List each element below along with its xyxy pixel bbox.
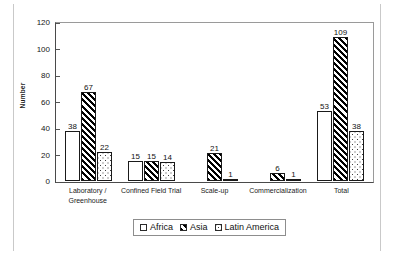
bar-value-label: 14	[163, 153, 172, 162]
x-axis-label: Total	[310, 186, 373, 205]
bar-value-label: 15	[147, 152, 156, 161]
bar-slot: 15	[128, 24, 143, 181]
bar-slot: 21	[207, 24, 222, 181]
legend-item-asia[interactable]: Asia	[180, 222, 208, 232]
bar-africa[interactable]: 53	[317, 111, 332, 181]
bar-asia[interactable]: 6	[270, 173, 285, 181]
bar-slot: 38	[65, 24, 80, 181]
bar-group: 151514	[120, 24, 183, 181]
bar-latin-america[interactable]: 38	[349, 131, 364, 181]
bar-value-label: 1	[228, 170, 232, 179]
y-tick-label: 40	[41, 124, 50, 133]
bar-africa[interactable]: 38	[65, 131, 80, 181]
bar-africa[interactable]: 15	[128, 161, 143, 181]
bar-value-label: 21	[210, 144, 219, 153]
x-axis-label-line: Laboratory /	[56, 186, 119, 196]
x-axis-label: Commercialization	[246, 186, 309, 205]
bar-group: 5310938	[309, 24, 372, 181]
bar-latin-america[interactable]: 22	[97, 152, 112, 181]
bar-value-label: 53	[320, 102, 329, 111]
bar-slot: 53	[317, 24, 332, 181]
bar-slot: 14	[160, 24, 175, 181]
y-tick-label: 80	[41, 71, 50, 80]
y-tick-mark	[56, 182, 60, 183]
x-axis-label-line: Commercialization	[246, 186, 309, 196]
y-axis-title: Number	[19, 66, 26, 126]
x-axis-label: Confined Field Trial	[119, 186, 182, 205]
bar-slot: 22	[97, 24, 112, 181]
y-tick-label: 0	[46, 177, 50, 186]
plot-area: 020406080100120 386722151514211615310938	[55, 22, 374, 183]
legend-swatch-icon	[180, 224, 187, 231]
chart-legend: AfricaAsiaLatin America	[133, 219, 286, 236]
bar-value-label: 67	[84, 83, 93, 92]
bar-value-label: 109	[334, 28, 347, 37]
bar-group: 211	[183, 24, 246, 181]
y-tick-label: 120	[37, 18, 50, 27]
bar-slot: 67	[81, 24, 96, 181]
bar-group: 386722	[57, 24, 120, 181]
x-axis-label: Scale-up	[183, 186, 246, 205]
y-tick-label: 20	[41, 151, 50, 160]
bar-asia[interactable]: 109	[333, 37, 348, 181]
bar-slot	[191, 24, 206, 181]
bar-slot: 15	[144, 24, 159, 181]
bar-slot	[254, 24, 269, 181]
bar-slot: 1	[223, 24, 238, 181]
bar-latin-america[interactable]: 14	[160, 162, 175, 181]
bar-asia[interactable]: 15	[144, 161, 159, 181]
bar-value-label: 6	[275, 164, 279, 173]
bar-group: 61	[246, 24, 309, 181]
bar-value-label: 1	[291, 170, 295, 179]
y-tick-label: 100	[37, 45, 50, 54]
legend-label: Latin America	[225, 222, 280, 232]
legend-label: Africa	[150, 222, 173, 232]
bar-slot: 38	[349, 24, 364, 181]
x-axis-label-line: Total	[310, 186, 373, 196]
bar-slot: 6	[270, 24, 285, 181]
bar-groups: 386722151514211615310938	[57, 24, 372, 181]
x-axis-label-line: Confined Field Trial	[119, 186, 182, 196]
bar-latin-america[interactable]: 1	[286, 179, 301, 181]
x-axis-label-line: Greenhouse	[56, 196, 119, 206]
bar-value-label: 15	[131, 152, 140, 161]
bar-asia[interactable]: 21	[207, 153, 222, 181]
bar-asia[interactable]: 67	[81, 92, 96, 181]
bar-latin-america[interactable]: 1	[223, 179, 238, 181]
bar-value-label: 22	[100, 143, 109, 152]
legend-swatch-icon	[215, 224, 222, 231]
legend-label: Asia	[190, 222, 208, 232]
bar-slot: 109	[333, 24, 348, 181]
legend-item-africa[interactable]: Africa	[140, 222, 173, 232]
x-axis-label-line: Scale-up	[183, 186, 246, 196]
x-axis-label: Laboratory /Greenhouse	[56, 186, 119, 205]
y-tick-label: 60	[41, 98, 50, 107]
legend-item-latin-america[interactable]: Latin America	[215, 222, 280, 232]
x-axis-category-labels: Laboratory /GreenhouseConfined Field Tri…	[56, 186, 373, 205]
legend-swatch-icon	[140, 224, 147, 231]
bar-slot: 1	[286, 24, 301, 181]
bar-value-label: 38	[68, 122, 77, 131]
bar-chart-figure: Number 020406080100120 38672215151421161…	[0, 0, 396, 255]
bar-value-label: 38	[352, 122, 361, 131]
